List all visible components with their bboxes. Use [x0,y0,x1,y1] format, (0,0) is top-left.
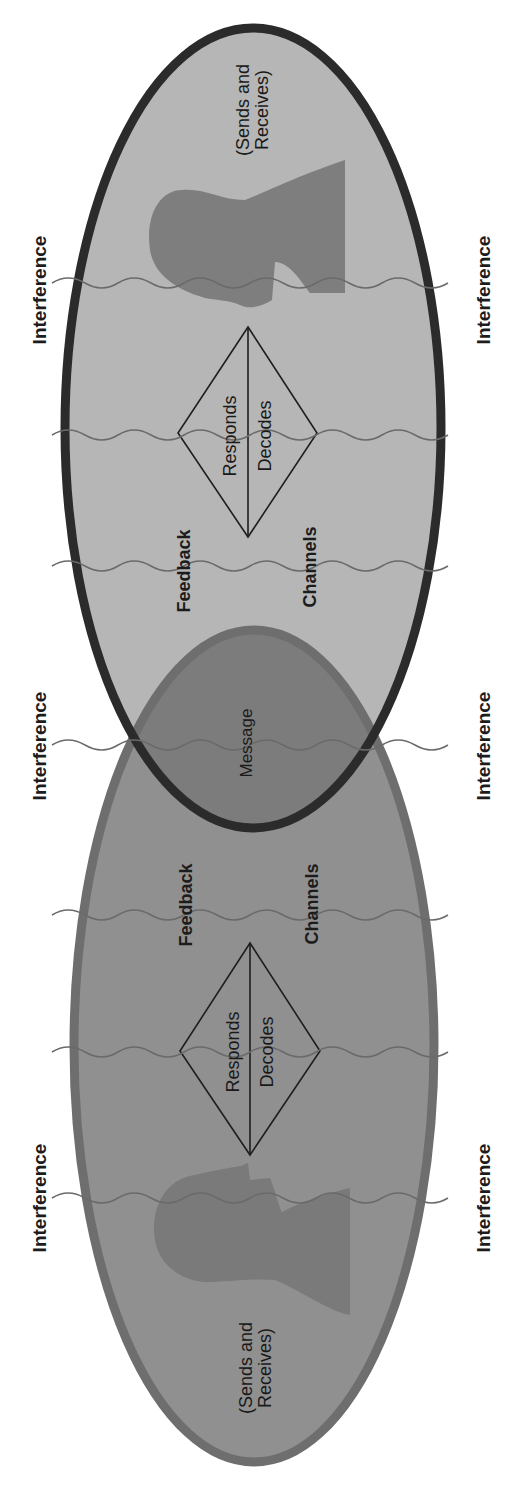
top-diamond-decodes-label: Decodes [256,400,275,471]
top-diamond-responds-label: Responds [221,395,240,476]
interference-label-bottom-left: Interference [30,1144,50,1253]
bottom-person-role-label: (Sends and Receives) [237,1322,275,1414]
top-person-role-line2: Receives) [253,64,272,156]
top-person-role-label: (Sends and Receives) [234,64,272,156]
bottom-person-role-line2: Receives) [256,1322,275,1414]
bottom-diamond-responds-label: Responds [224,1011,243,1092]
bottom-person-role-line1: (Sends and [237,1322,256,1414]
interference-label-top-left: Interference [30,236,50,345]
interference-label-top-right: Interference [474,236,494,345]
bottom-diamond-decodes-label: Decodes [258,1016,277,1087]
top-feedback-label: Feedback [175,529,194,612]
interference-label-middle-right: Interference [474,692,494,801]
bottom-channels-label: Channels [303,863,322,944]
top-channels-label: Channels [301,526,320,607]
top-person-role-line1: (Sends and [234,64,253,156]
interference-label-middle-left: Interference [30,692,50,801]
bottom-feedback-label: Feedback [177,863,196,946]
message-label: Message [238,709,256,778]
interference-label-bottom-right: Interference [474,1144,494,1253]
